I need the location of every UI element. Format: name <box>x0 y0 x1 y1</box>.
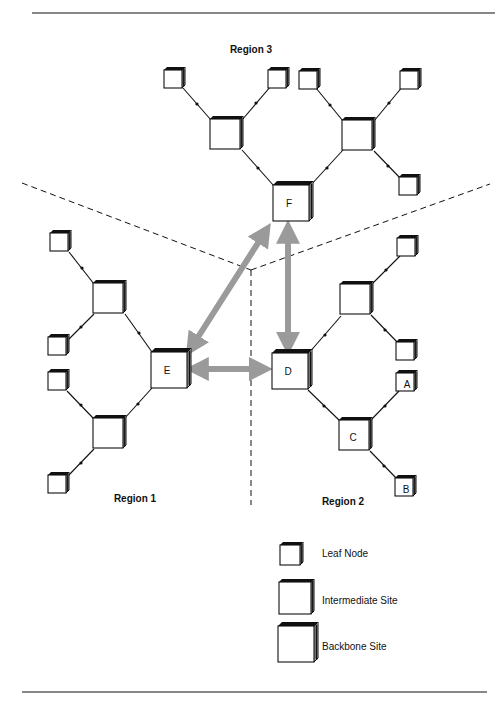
leaf-node <box>50 230 71 251</box>
leaf-node <box>268 67 289 88</box>
intermediate-site <box>340 281 373 314</box>
leaf-node <box>397 235 418 256</box>
leaf-node <box>399 174 420 195</box>
region-2-label: Region 2 <box>322 496 365 507</box>
legend-intermediate-box <box>279 579 314 614</box>
backbone-site <box>273 181 313 221</box>
leaf-node <box>48 334 69 355</box>
legend-backbone-box <box>278 622 318 662</box>
intermediate-site <box>342 117 375 150</box>
leaf-node <box>48 472 69 493</box>
legend-leaf-icon <box>280 542 303 565</box>
backbone-site <box>272 349 312 389</box>
legend-backbone-label: Backbone Site <box>322 641 387 652</box>
leaf-node <box>164 67 185 88</box>
backbone-links <box>193 232 288 369</box>
node-b-label: B <box>403 484 410 495</box>
legend: Leaf Node Intermediate Site Backbone Sit… <box>278 542 398 662</box>
legend-leaf-box <box>280 542 303 565</box>
leaf-node <box>48 369 69 390</box>
node-c-label: C <box>349 432 356 443</box>
region-3-label: Region 3 <box>230 44 273 55</box>
leaf-node <box>396 339 417 360</box>
region-dividers <box>22 183 490 505</box>
legend-intermediate-icon <box>279 579 314 614</box>
leaf-node <box>299 68 320 89</box>
intermediate-site <box>93 280 126 313</box>
intermediate-site <box>93 415 126 448</box>
node-f-label: F <box>286 198 292 209</box>
backbone-site <box>151 348 191 388</box>
node-e-label: E <box>164 365 171 376</box>
intermediate-site <box>210 116 243 149</box>
leaf-node <box>400 68 421 89</box>
legend-leaf-label: Leaf Node <box>322 548 369 559</box>
legend-backbone-icon <box>278 622 318 662</box>
node-a-label: A <box>404 379 411 390</box>
node-d-label: D <box>284 366 291 377</box>
legend-intermediate-label: Intermediate Site <box>322 595 398 606</box>
network-diagram: Region 3 Region 1 Region 2 F E D C A B L… <box>0 0 502 702</box>
region-1-label: Region 1 <box>114 493 157 504</box>
link-e-f <box>193 232 265 345</box>
